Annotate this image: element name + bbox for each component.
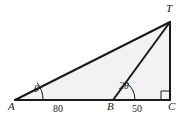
vertex-label-A: A (8, 101, 15, 112)
vertex-label-B: B (107, 101, 114, 112)
angle-label-theta-at-A: θ (34, 84, 39, 94)
angle-label-two-theta-at-B: 2θ (119, 81, 129, 91)
vertex-label-T: T (166, 3, 172, 14)
length-label-AB: 80 (53, 104, 63, 114)
geometry-figure: A B C T 80 50 θ 2θ (0, 0, 184, 119)
vertex-label-C: C (168, 101, 175, 112)
triangle-diagram-svg (0, 0, 184, 119)
length-label-BC: 50 (132, 104, 142, 114)
